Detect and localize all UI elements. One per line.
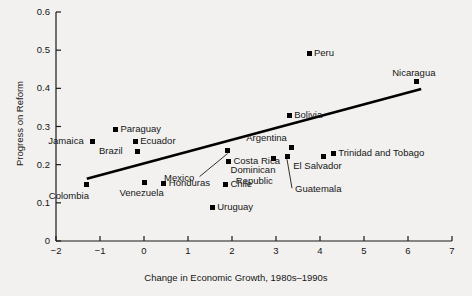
data-point-marker bbox=[135, 149, 140, 154]
y-axis-ticks bbox=[56, 12, 61, 241]
y-tick-label: 0.2 bbox=[0, 159, 50, 170]
data-point-label: Peru bbox=[314, 48, 334, 58]
data-point-marker bbox=[307, 51, 312, 56]
data-point-label: Venezuela bbox=[119, 188, 163, 198]
data-point-label: Jamaica bbox=[48, 136, 83, 146]
data-point-label: El Salvador bbox=[293, 161, 342, 171]
data-point-label: Ecuador bbox=[140, 136, 175, 146]
y-tick-label: 0.1 bbox=[0, 197, 50, 208]
y-tick-label: 0.4 bbox=[0, 82, 50, 93]
data-point-label: Nicaragua bbox=[392, 68, 435, 78]
data-point-label: Colombia bbox=[49, 191, 89, 201]
x-tick-label: 0 bbox=[124, 245, 164, 256]
data-point-label: Argentina bbox=[246, 133, 287, 143]
x-tick-label: 3 bbox=[256, 245, 296, 256]
data-point-marker bbox=[331, 151, 336, 156]
data-point-marker bbox=[210, 205, 215, 210]
x-tick-label: 6 bbox=[388, 245, 428, 256]
data-point-marker bbox=[289, 145, 294, 150]
data-point-label: Guatemala bbox=[295, 184, 341, 194]
data-point-marker bbox=[90, 139, 95, 144]
data-point-marker bbox=[225, 148, 230, 153]
x-tick-label: −2 bbox=[36, 245, 76, 256]
y-tick-label: 0.6 bbox=[0, 6, 50, 17]
x-tick-label: 4 bbox=[300, 245, 340, 256]
data-point-label: Dominican bbox=[231, 165, 276, 175]
data-point-marker bbox=[84, 182, 89, 187]
data-point-marker bbox=[287, 113, 292, 118]
x-axis-ticks bbox=[56, 236, 452, 241]
data-point-marker bbox=[133, 139, 138, 144]
x-tick-label: 2 bbox=[212, 245, 252, 256]
y-axis-title: Progress on Reform bbox=[14, 69, 25, 179]
data-point-label: Republic bbox=[236, 176, 273, 186]
x-axis-title: Change in Economic Growth, 1980s–1990s bbox=[0, 272, 472, 283]
data-point-marker bbox=[142, 180, 147, 185]
y-tick-label: 0.3 bbox=[0, 121, 50, 132]
y-tick-label: 0.5 bbox=[0, 44, 50, 55]
label-leader-line bbox=[200, 154, 228, 177]
data-point-label: Mexico bbox=[164, 173, 194, 183]
data-point-label: Bolivia bbox=[294, 110, 322, 120]
label-leader-line bbox=[287, 159, 292, 188]
data-point-marker bbox=[321, 154, 326, 159]
x-tick-label: 7 bbox=[432, 245, 472, 256]
x-tick-label: 5 bbox=[344, 245, 384, 256]
x-tick-label: −1 bbox=[80, 245, 120, 256]
data-point-label: Uruguay bbox=[217, 202, 253, 212]
data-point-label: Brazil bbox=[99, 146, 123, 156]
data-point-marker bbox=[223, 182, 228, 187]
x-tick-label: 1 bbox=[168, 245, 208, 256]
data-point-marker bbox=[414, 79, 419, 84]
data-point-label: Trinidad and Tobago bbox=[338, 148, 424, 158]
data-point-label: Paraguay bbox=[120, 124, 161, 134]
data-point-marker bbox=[113, 127, 118, 132]
data-point-marker bbox=[285, 154, 290, 159]
